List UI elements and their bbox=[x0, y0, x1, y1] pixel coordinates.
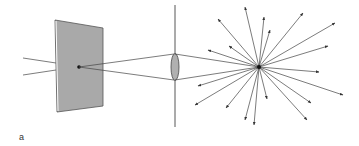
starburst-arrows bbox=[195, 7, 343, 125]
lens bbox=[171, 54, 179, 81]
optics-diagram bbox=[0, 0, 359, 146]
focal-point bbox=[257, 65, 261, 69]
incoming-rays bbox=[23, 58, 56, 75]
panel-label: a bbox=[19, 133, 24, 142]
